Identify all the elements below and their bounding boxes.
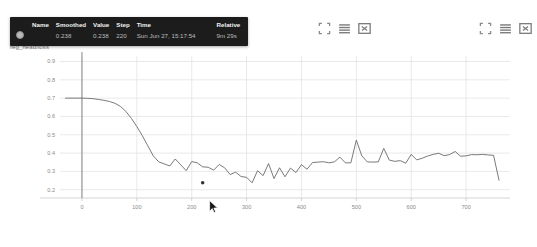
chart-toolbar-left: [318, 22, 371, 35]
svg-text:500: 500: [352, 204, 361, 210]
svg-text:0.8: 0.8: [47, 77, 55, 83]
svg-text:200: 200: [187, 204, 196, 210]
svg-text:0.9: 0.9: [47, 58, 55, 64]
svg-text:0.5: 0.5: [47, 132, 55, 138]
lines-icon[interactable]: [499, 22, 512, 35]
tooltip-header-row: Name Smoothed Value Step Time Relative: [16, 21, 240, 31]
svg-text:0: 0: [80, 204, 83, 210]
svg-text:100: 100: [132, 204, 141, 210]
svg-text:0.4: 0.4: [47, 150, 55, 156]
scalar-chart-card: 0.20.30.40.50.60.70.80.90100200300400500…: [0, 0, 537, 247]
svg-text:400: 400: [297, 204, 306, 210]
swatch-dot: [16, 31, 24, 39]
chart-svg: 0.20.30.40.50.60.70.80.90100200300400500…: [34, 52, 514, 220]
tooltip-value-value: 0.238: [93, 31, 116, 42]
svg-text:0.7: 0.7: [47, 95, 55, 101]
tooltip-row: 0.238 0.238 220 Sun Jun 27, 15:17:54 9m …: [16, 31, 240, 42]
svg-text:0.2: 0.2: [47, 187, 55, 193]
tooltip-value-relative: 9m 29s: [203, 31, 241, 42]
svg-text:0.6: 0.6: [47, 113, 55, 119]
tooltip-value-name: [32, 31, 56, 42]
svg-text:300: 300: [242, 204, 251, 210]
tooltip-header-name: Name: [32, 21, 56, 31]
expand-box-icon[interactable]: [519, 22, 532, 35]
tooltip-header-smoothed: Smoothed: [56, 21, 93, 31]
tooltip-swatch-header: [16, 21, 32, 31]
tooltip-header-relative: Relative: [203, 21, 241, 31]
tooltip-value-smoothed: 0.238: [56, 31, 93, 42]
svg-text:700: 700: [461, 204, 470, 210]
chart-toolbar-right: [479, 22, 532, 35]
tooltip-value-time: Sun Jun 27, 15:17:54: [137, 31, 203, 42]
lines-icon[interactable]: [338, 22, 351, 35]
tooltip-header-step: Step: [116, 21, 136, 31]
hover-tooltip: Name Smoothed Value Step Time Relative 0…: [10, 17, 248, 46]
expand-box-icon[interactable]: [358, 22, 371, 35]
fullscreen-icon[interactable]: [318, 22, 331, 35]
series-color-swatch: [16, 31, 32, 42]
tooltip-header-value: Value: [93, 21, 116, 31]
fullscreen-icon[interactable]: [479, 22, 492, 35]
tooltip-header-time: Time: [137, 21, 203, 31]
chart-plot-area[interactable]: 0.20.30.40.50.60.70.80.90100200300400500…: [34, 52, 514, 220]
tooltip-value-step: 220: [116, 31, 136, 42]
svg-text:0.3: 0.3: [47, 168, 55, 174]
svg-text:600: 600: [407, 204, 416, 210]
